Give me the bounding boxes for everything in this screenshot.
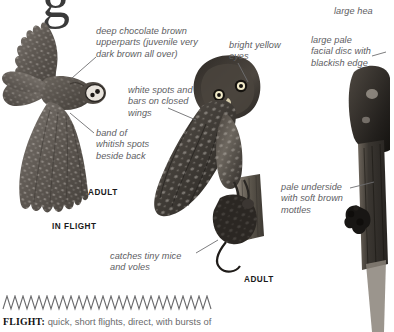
- flight-label: FLIGHT:: [3, 316, 45, 327]
- label-adult-perched: ADULT: [244, 275, 274, 284]
- annotation-catches-mice: catches tiny mice and voles: [110, 251, 204, 274]
- annotation-band-whitish: band of whitish spots beside back: [96, 128, 170, 162]
- owl-perched-illustration: [152, 46, 282, 278]
- label-adult-flight: ADULT: [88, 188, 118, 197]
- annotation-white-spots: white spots and bars on closed wings: [128, 85, 210, 119]
- annotation-large-head: large hea: [334, 6, 394, 17]
- annotation-bright-eyes: bright yellow eyes: [229, 40, 301, 63]
- flight-text: quick, short flights, direct, with burst…: [45, 316, 211, 327]
- annotation-pale-underside: pale underside with soft brown mottles: [281, 182, 369, 216]
- annotation-facial-disc: large pale facial disc with blackish edg…: [311, 35, 393, 69]
- annotation-upperparts: deep chocolate brown upperparts (juvenil…: [96, 26, 210, 60]
- flight-path-zigzag: [2, 295, 214, 315]
- flight-description: FLIGHT: quick, short flights, direct, wi…: [3, 316, 211, 328]
- label-in-flight: IN FLIGHT: [52, 222, 97, 231]
